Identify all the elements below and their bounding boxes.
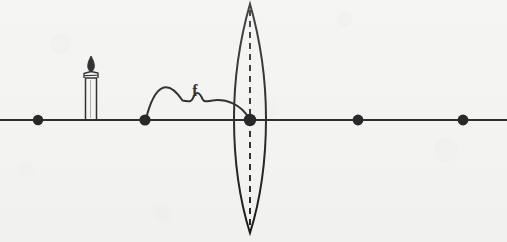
axis-point-f-left [139,114,150,125]
candle-object [84,56,98,120]
candle-body [86,78,97,120]
lens-diagram-canvas: f [0,0,507,242]
lens-diagram-figure: f [0,0,507,242]
axis-point-f-right [353,115,364,126]
axis-point-lens-center [244,114,256,126]
focal-length-label: f [192,82,198,99]
axis-point-2f-left [33,115,43,125]
axis-point-2f-right [458,115,469,126]
